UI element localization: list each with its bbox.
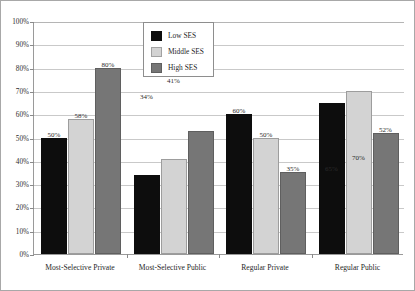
bar-value-label: 35% (287, 165, 300, 173)
legend-label: Low SES (168, 31, 196, 40)
legend-label: High SES (168, 63, 197, 72)
x-axis-tick (312, 254, 313, 258)
gridline (34, 45, 404, 46)
bar-value-label: 65% (325, 165, 338, 173)
y-axis-tick-label: 80% (1, 65, 29, 73)
y-axis-tick (30, 185, 34, 186)
bar-middle-ses-most-selective-private (68, 119, 94, 254)
legend-swatch-icon (151, 63, 162, 73)
bar-high-ses-most-selective-public (188, 131, 214, 255)
legend-swatch-icon (151, 47, 162, 57)
bar-value-label: 70% (352, 154, 365, 162)
gridline (34, 22, 404, 23)
gridline (34, 69, 404, 70)
y-axis-tick-label: 90% (1, 41, 29, 49)
y-axis-tick (30, 139, 34, 140)
bar-value-label: 58% (75, 112, 88, 120)
x-axis-category-label: Most-Selective Private (45, 263, 114, 272)
y-axis-tick (30, 162, 34, 163)
bar-value-label: 50% (48, 131, 61, 139)
bar-low-ses-regular-private (226, 114, 252, 254)
legend-item-middle-ses: Middle SES (151, 44, 213, 59)
bar-value-label: 34% (140, 93, 153, 101)
chart-container: 100% 90% 80% 70% 60% 50% 40% 30% 20% 10%… (0, 0, 415, 291)
plot-area: 50% 58% 80% 34% 41% 53% 60% 50% 35% 65% … (33, 22, 403, 255)
bar-value-label: 41% (167, 77, 180, 85)
y-axis-tick (30, 115, 34, 116)
y-axis-tick-label: 100% (1, 18, 29, 26)
y-axis-tick (30, 92, 34, 93)
x-axis-tick (127, 254, 128, 258)
legend-item-low-ses: Low SES (151, 28, 213, 43)
x-axis-category-label: Regular Public (335, 263, 380, 272)
y-axis-tick (30, 22, 34, 23)
y-axis-tick (30, 69, 34, 70)
bar-middle-ses-regular-public (346, 91, 372, 254)
y-axis-tick-label: 0% (1, 251, 29, 259)
bar-middle-ses-regular-private (253, 138, 279, 255)
bar-value-label: 50% (260, 131, 273, 139)
chart-legend: Low SES Middle SES High SES (143, 22, 214, 77)
bar-high-ses-most-selective-private (95, 68, 121, 254)
x-axis-category-label: Regular Private (241, 263, 288, 272)
y-axis-tick-label: 40% (1, 158, 29, 166)
legend-item-high-ses: High SES (151, 60, 213, 75)
bar-low-ses-regular-public (319, 103, 345, 254)
y-axis-tick (30, 232, 34, 233)
y-axis-tick-label: 30% (1, 181, 29, 189)
bar-low-ses-most-selective-private (41, 138, 67, 255)
bar-high-ses-regular-private (280, 172, 306, 254)
x-axis-tick (219, 254, 220, 258)
bar-value-label: 80% (102, 61, 115, 69)
y-axis-tick-label: 70% (1, 88, 29, 96)
x-axis-category-label: Most-Selective Public (139, 263, 206, 272)
y-axis-tick (30, 208, 34, 209)
bar-value-label: 60% (233, 107, 246, 115)
y-axis-tick (30, 255, 34, 256)
y-axis-tick-label: 20% (1, 204, 29, 212)
y-axis-tick-label: 60% (1, 111, 29, 119)
legend-swatch-icon (151, 31, 162, 41)
bar-value-label: 52% (379, 126, 392, 134)
bar-high-ses-regular-public (373, 133, 399, 254)
y-axis-tick-label: 50% (1, 135, 29, 143)
y-axis-tick-label: 10% (1, 228, 29, 236)
bar-middle-ses-most-selective-public (161, 159, 187, 255)
bar-low-ses-most-selective-public (134, 175, 160, 254)
legend-label: Middle SES (168, 47, 204, 56)
y-axis-tick (30, 45, 34, 46)
